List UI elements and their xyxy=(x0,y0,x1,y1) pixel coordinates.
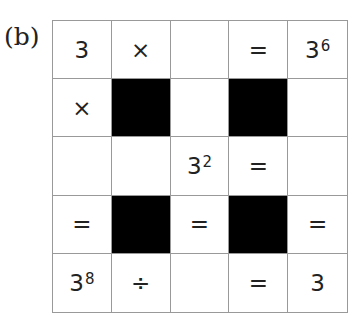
grid-cell[interactable]: = xyxy=(288,196,347,254)
cell-value: 3 xyxy=(305,37,320,63)
grid-cell[interactable] xyxy=(112,137,171,195)
cell-value: = xyxy=(308,211,327,237)
grid-cell[interactable]: = xyxy=(229,21,288,79)
grid-cell[interactable] xyxy=(288,137,347,195)
cell-value: = xyxy=(190,211,209,237)
grid-cell[interactable]: = xyxy=(229,254,288,312)
grid-cell[interactable]: × xyxy=(53,79,112,137)
cell-value: × xyxy=(72,95,91,121)
cell-value: = xyxy=(72,211,91,237)
cell-value: = xyxy=(249,153,268,179)
puzzle-grid: 3×=36×32====38÷=3 xyxy=(52,20,348,313)
figure-label: (b) xyxy=(4,22,40,51)
cell-value: 3 xyxy=(187,153,202,179)
cell-exponent: 6 xyxy=(321,37,331,55)
cell-value: 3 xyxy=(75,37,90,63)
cell-value: × xyxy=(131,37,150,63)
grid-cell[interactable] xyxy=(171,79,230,137)
grid-cell[interactable] xyxy=(171,21,230,79)
blocked-cell xyxy=(112,79,171,137)
blocked-cell xyxy=(229,79,288,137)
cell-value: 3 xyxy=(69,270,84,296)
grid-cell[interactable]: × xyxy=(112,21,171,79)
grid-cell[interactable]: 32 xyxy=(171,137,230,195)
cell-exponent: 8 xyxy=(85,270,95,288)
grid-cell[interactable]: 38 xyxy=(53,254,112,312)
grid-cell[interactable]: 36 xyxy=(288,21,347,79)
grid-cell[interactable] xyxy=(171,254,230,312)
cell-value: ÷ xyxy=(131,270,150,296)
blocked-cell xyxy=(112,196,171,254)
cell-value: = xyxy=(249,37,268,63)
grid-cell[interactable]: 3 xyxy=(288,254,347,312)
grid-cell[interactable]: = xyxy=(171,196,230,254)
grid-cell[interactable] xyxy=(53,137,112,195)
cell-value: = xyxy=(249,270,268,296)
blocked-cell xyxy=(229,196,288,254)
grid-cell[interactable]: ÷ xyxy=(112,254,171,312)
grid-cell[interactable]: = xyxy=(229,137,288,195)
grid-cell[interactable]: = xyxy=(53,196,112,254)
cell-value: 3 xyxy=(310,270,325,296)
grid-cell[interactable] xyxy=(288,79,347,137)
cell-exponent: 2 xyxy=(203,153,213,171)
grid-cell[interactable]: 3 xyxy=(53,21,112,79)
